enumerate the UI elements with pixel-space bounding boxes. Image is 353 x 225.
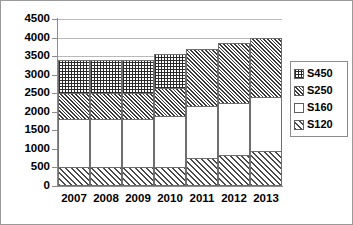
x-tick-label-2008: 2008 [90, 192, 122, 204]
legend-item-s450[interactable]: S450 [294, 65, 345, 82]
bar-segment-s160 [154, 116, 186, 168]
y-axis-line [57, 18, 58, 187]
bar-segment-s160 [250, 97, 282, 151]
bar-2012 [218, 19, 250, 186]
bar-segment-s160 [218, 103, 250, 155]
bar-segment-s250 [218, 43, 250, 102]
bar-segment-s160 [186, 106, 218, 158]
x-tick-label-2009: 2009 [122, 192, 154, 204]
y-tick-label: 2500 [4, 87, 50, 98]
bar-segment-s120 [186, 158, 218, 186]
x-tick-label-2012: 2012 [218, 192, 250, 204]
y-tick-label: 0 [4, 180, 50, 191]
x-axis-labels: 2007 2008 2009 2010 2011 2012 2013 [58, 192, 282, 204]
bar-2008 [90, 19, 122, 186]
x-tick-label-2010: 2010 [154, 192, 186, 204]
legend-swatch-s250-icon [294, 86, 304, 96]
y-tick-label: 2000 [4, 106, 50, 117]
bar-segment-s160 [90, 119, 122, 167]
x-tick-label-2007: 2007 [58, 192, 90, 204]
bar-segment-s120 [90, 167, 122, 186]
bar-2013 [250, 19, 282, 186]
bar-segment-s120 [122, 167, 154, 186]
legend-label-s120: S120 [307, 119, 333, 130]
stacked-bar-chart: 4500 4000 3500 3000 2500 2000 1500 1000 … [0, 0, 353, 225]
bar-segment-s160 [122, 119, 154, 167]
bar-2009 [122, 19, 154, 186]
bar-segment-s120 [58, 167, 90, 186]
legend-swatch-s160-icon [294, 103, 304, 113]
legend: S450 S250 S160 S120 [290, 61, 348, 137]
legend-item-s160[interactable]: S160 [294, 99, 345, 116]
legend-item-s120[interactable]: S120 [294, 116, 345, 133]
y-tick-label: 500 [4, 161, 50, 172]
bar-segment-s250 [58, 93, 90, 119]
x-axis-line [57, 186, 283, 187]
legend-label-s160: S160 [307, 102, 333, 113]
bar-group [58, 19, 282, 186]
bar-segment-s450 [90, 60, 122, 93]
legend-item-s250[interactable]: S250 [294, 82, 345, 99]
bar-segment-s250 [90, 93, 122, 119]
bar-2011 [186, 19, 218, 186]
bar-segment-s250 [154, 88, 186, 116]
bar-segment-s120 [218, 155, 250, 187]
y-tick-label: 4000 [4, 32, 50, 43]
legend-label-s250: S250 [307, 85, 333, 96]
bar-2010 [154, 19, 186, 186]
legend-swatch-s450-icon [294, 69, 304, 79]
y-tick-label: 3000 [4, 69, 50, 80]
legend-label-s450: S450 [307, 68, 333, 79]
bar-segment-s250 [122, 93, 154, 119]
x-tick-label-2013: 2013 [250, 192, 282, 204]
bar-segment-s250 [186, 49, 218, 107]
bar-segment-s450 [122, 60, 154, 93]
bar-segment-s250 [250, 38, 282, 97]
bar-segment-s450 [154, 54, 186, 87]
bar-segment-s450 [58, 60, 90, 93]
legend-swatch-s120-icon [294, 120, 304, 130]
bar-2007 [58, 19, 90, 186]
y-tick-label: 1500 [4, 124, 50, 135]
x-tick-label-2011: 2011 [186, 192, 218, 204]
y-axis-labels: 4500 4000 3500 3000 2500 2000 1500 1000 … [1, 1, 50, 225]
bar-segment-s160 [58, 119, 90, 167]
bar-segment-s120 [154, 167, 186, 186]
y-tick-label: 4500 [4, 13, 50, 24]
y-tick-label: 3500 [4, 50, 50, 61]
bar-segment-s120 [250, 151, 282, 186]
y-tick-label: 1000 [4, 143, 50, 154]
